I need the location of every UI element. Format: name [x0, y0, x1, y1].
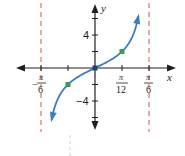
svg-text:π: π [39, 73, 44, 82]
y-tick-label-neg4: −4 [76, 95, 89, 107]
svg-text:6: 6 [146, 84, 151, 95]
point-origin [93, 66, 98, 71]
svg-text:6: 6 [38, 84, 43, 95]
x-axis-arrow-left [16, 65, 25, 72]
y-axis-arrow-up [92, 4, 99, 13]
point-neg-pi12 [66, 82, 71, 87]
tangent-graph: y x 4 −4 − π 6 π 12 π 6 [0, 0, 185, 156]
svg-text:π: π [119, 73, 124, 82]
x-tick-label-pi6: π 6 [144, 73, 153, 95]
y-tick-label-4: 4 [83, 29, 89, 41]
curve-arrow-top [133, 14, 140, 25]
curve-arrow-bottom [50, 111, 57, 122]
x-axis-label: x [166, 71, 172, 83]
y-axis-label: y [100, 2, 106, 14]
x-tick-label-pi12: π 12 [116, 73, 128, 95]
point-pi12 [120, 49, 125, 54]
x-tick-label-neg-pi6: − π 6 [32, 73, 46, 95]
svg-text:π: π [146, 73, 151, 82]
svg-text:12: 12 [116, 84, 126, 95]
y-axis-arrow-down [92, 121, 99, 130]
